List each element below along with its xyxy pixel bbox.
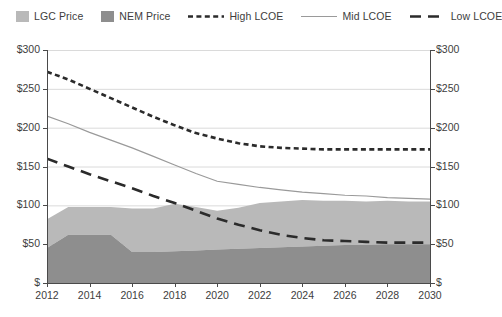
y-axis-left-tick-label: $300: [2, 44, 40, 55]
x-axis-tick: [430, 283, 431, 287]
y-axis-left-tick: [43, 128, 47, 129]
y-axis-right-tick-label: $100: [436, 199, 474, 210]
x-axis-tick: [345, 283, 346, 287]
legend-item-nem-price[interactable]: NEM Price: [101, 0, 170, 32]
x-axis-spine: [47, 283, 431, 284]
y-axis-left-tick: [43, 167, 47, 168]
y-axis-left-tick-label: $100: [2, 199, 40, 210]
x-axis-tick: [90, 283, 91, 287]
y-axis-left-tick: [43, 244, 47, 245]
x-axis-tick-label: 2020: [197, 289, 237, 301]
legend-swatch-nem-price: [101, 11, 114, 22]
y-axis-right-tick-label: $150: [436, 161, 474, 172]
y-axis-left-spine: [47, 50, 48, 283]
y-axis-right-tick-label: $200: [436, 122, 474, 133]
x-axis-tick: [132, 283, 133, 287]
x-axis-tick-label: 2026: [325, 289, 365, 301]
y-axis-left-tick-label: $200: [2, 122, 40, 133]
legend-item-lgc-price[interactable]: LGC Price: [16, 0, 83, 32]
x-axis-tick-label: 2018: [155, 289, 195, 301]
x-axis-tick-label: 2012: [27, 289, 67, 301]
legend-item-high-lcoe[interactable]: High LCOE: [188, 0, 283, 32]
y-axis-right-tick: [431, 205, 435, 206]
legend-swatch-lgc-price: [16, 11, 29, 22]
x-axis-tick: [217, 283, 218, 287]
legend-item-low-lcoe[interactable]: Low LCOE: [410, 0, 502, 32]
y-axis-left-tick-label: $: [2, 277, 40, 288]
y-axis-right-tick-label: $250: [436, 83, 474, 94]
y-axis-right-tick: [431, 283, 435, 284]
legend-item-mid-lcoe[interactable]: Mid LCOE: [301, 0, 391, 32]
x-axis-tick: [175, 283, 176, 287]
legend-label-mid-lcoe: Mid LCOE: [342, 10, 391, 22]
x-axis-tick: [387, 283, 388, 287]
y-axis-left-tick-label: $50: [2, 238, 40, 249]
x-axis-tick: [47, 283, 48, 287]
y-axis-left-tick-label: $250: [2, 83, 40, 94]
legend-label-low-lcoe: Low LCOE: [451, 10, 502, 22]
y-axis-right-tick: [431, 167, 435, 168]
plot-area: [47, 50, 430, 283]
legend-label-high-lcoe: High LCOE: [229, 10, 283, 22]
x-axis-tick-label: 2016: [112, 289, 152, 301]
x-axis-tick-label: 2014: [70, 289, 110, 301]
y-axis-left-tick: [43, 89, 47, 90]
x-axis-tick-label: 2024: [282, 289, 322, 301]
y-axis-left-tick-label: $150: [2, 161, 40, 172]
legend-label-lgc-price: LGC Price: [34, 10, 83, 22]
x-axis-tick: [260, 283, 261, 287]
y-axis-right-tick: [431, 128, 435, 129]
x-axis-tick-label: 2030: [410, 289, 450, 301]
y-axis-right-tick-label: $: [436, 277, 474, 288]
x-axis-tick: [302, 283, 303, 287]
legend-label-nem-price: NEM Price: [119, 10, 170, 22]
y-axis-right-tick: [431, 50, 435, 51]
chart-legend: LGC Price NEM Price High LCOE Mid LCOE: [0, 0, 473, 32]
legend-line-mid-lcoe: [301, 11, 337, 22]
y-axis-right-tick: [431, 89, 435, 90]
area-series-group: [47, 200, 430, 283]
y-axis-left-tick: [43, 205, 47, 206]
legend-line-high-lcoe: [188, 11, 224, 22]
legend-line-low-lcoe: [410, 11, 446, 22]
y-axis-right-tick: [431, 244, 435, 245]
y-axis-left-tick: [43, 50, 47, 51]
x-axis-tick-label: 2022: [240, 289, 280, 301]
x-axis-tick-label: 2028: [367, 289, 407, 301]
y-axis-right-tick-label: $300: [436, 44, 474, 55]
y-axis-right-tick-label: $50: [436, 238, 474, 249]
